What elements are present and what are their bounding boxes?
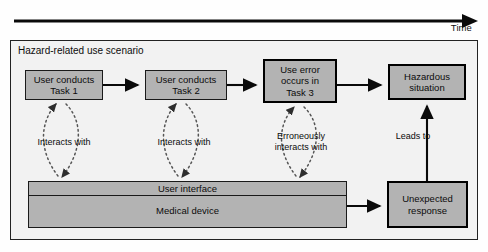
node-hazardous-situation: Hazardous situation (388, 64, 466, 100)
scenario-title: Hazard-related use scenario (18, 45, 144, 56)
medical-device-stack: User interface Medical device (28, 181, 347, 228)
user-interface-label: User interface (29, 183, 346, 194)
edge-label-interacts-with-1: Interacts with (21, 137, 107, 148)
edge-label-leads-to: Leads to (382, 131, 444, 142)
time-arrow-icon (0, 0, 488, 40)
medical-device-layer: Medical device (29, 196, 346, 227)
medical-device-label: Medical device (29, 205, 346, 216)
node-user-conducts-task-1: User conducts Task 1 (25, 70, 103, 100)
node-user-conducts-task-2: User conducts Task 2 (145, 70, 227, 100)
node-unexpected-response: Unexpected response (387, 181, 468, 228)
time-axis-label: Time (451, 22, 472, 33)
diagram-canvas: Time Hazard-related use scenario (0, 0, 488, 252)
edge-label-interacts-with-2: Interacts with (141, 137, 227, 148)
edge-label-erroneously-interacts-with: Erroneously interacts with (258, 131, 344, 152)
time-axis: Time (0, 0, 488, 40)
user-interface-layer: User interface (29, 182, 346, 196)
node-use-error-task-3: Use error occurs in Task 3 (263, 59, 337, 103)
